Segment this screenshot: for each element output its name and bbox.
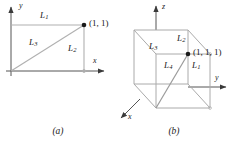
y-axis-label-3d: y (215, 74, 219, 82)
segment-label-L2-2d: L2 (68, 44, 76, 54)
point-label-2d: (1, 1) (89, 19, 109, 28)
caption-b: (b) (116, 126, 232, 136)
figure-container: y x L1 L2 L3 (1, 1) (a) (0, 0, 232, 143)
z-axis-label-3d: z (162, 3, 165, 11)
x-axis-label-3d: x (128, 113, 132, 121)
point-marker-2d (82, 23, 87, 28)
x-axis-label-2d: x (93, 57, 97, 65)
segment-label-L3-3d: L3 (149, 42, 157, 52)
panel-b-drawing (116, 0, 232, 143)
segment-label-L3-2d: L3 (29, 38, 37, 48)
cube-edge-bot-right (188, 84, 210, 108)
cube-edge-bot-left (134, 84, 156, 108)
y-axis-label-2d: y (19, 2, 23, 10)
segment-label-L2-3d: L2 (177, 34, 185, 44)
point-label-3d: (1, 1, 1) (193, 48, 222, 57)
segment-label-L4-3d: L4 (164, 61, 172, 71)
caption-a: (a) (0, 126, 116, 136)
point-marker-3d (186, 52, 191, 57)
segment-label-L1-2d: L1 (40, 11, 48, 21)
panel-b-3d-diagram: z y x L1 L2 L3 L4 (1, 1, 1) (b) (116, 0, 232, 143)
segment-label-L1-3d: L1 (192, 61, 200, 71)
panel-a-2d-diagram: y x L1 L2 L3 (1, 1) (a) (0, 0, 116, 143)
